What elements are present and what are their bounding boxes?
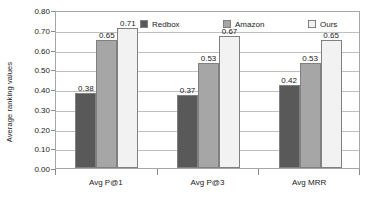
y-axis-tick-label: 0.00 xyxy=(18,165,50,174)
bar-redbox-avgp3 xyxy=(177,95,198,168)
y-axis-tick-mark xyxy=(51,31,55,32)
bars-layer: 0.380.650.710.370.530.670.420.530.65 xyxy=(56,12,359,168)
bar-ours-avgmrr xyxy=(321,40,342,168)
bar-value-label: 0.42 xyxy=(281,76,297,85)
legend-swatch-icon xyxy=(223,20,231,28)
legend-entry-redbox[interactable]: Redbox xyxy=(140,20,180,29)
bar-amazon-avgp3 xyxy=(198,63,219,168)
x-axis-ticks xyxy=(55,169,360,177)
y-axis-tick-label: 0.10 xyxy=(18,145,50,154)
x-axis-category-label: Avg P@3 xyxy=(191,178,225,187)
bar-value-label: 0.53 xyxy=(201,54,217,63)
y-axis-tick-mark xyxy=(51,90,55,91)
legend-swatch-icon xyxy=(308,20,316,28)
legend-swatch-icon xyxy=(140,20,148,28)
y-axis-tick-mark xyxy=(51,149,55,150)
bar-amazon-avgp1 xyxy=(96,40,117,168)
x-axis-category-label: Avg P@1 xyxy=(89,178,123,187)
y-axis-tick-label: 0.20 xyxy=(18,125,50,134)
plot-area: 0.380.650.710.370.530.670.420.530.65 Red… xyxy=(55,11,360,169)
y-axis-tick-label: 0.80 xyxy=(18,7,50,16)
bar-redbox-avgmrr xyxy=(279,85,300,168)
bar-redbox-avgp1 xyxy=(75,93,96,168)
bar-chart: Average ranking values 0.800.700.600.500… xyxy=(0,0,370,204)
y-axis-tick-label: 0.70 xyxy=(18,26,50,35)
y-axis-tick-mark xyxy=(51,110,55,111)
chart-legend: RedboxAmazonOurs xyxy=(56,16,359,32)
legend-entry-amazon[interactable]: Amazon xyxy=(223,20,264,29)
x-axis-tick-mark xyxy=(359,169,360,175)
y-axis-tick-label: 0.50 xyxy=(18,66,50,75)
y-axis-tick-label: 0.40 xyxy=(18,86,50,95)
y-axis-title: Average ranking values xyxy=(0,0,18,204)
y-axis-tick-mark xyxy=(51,51,55,52)
legend-label: Amazon xyxy=(235,20,264,29)
y-axis-tick-labels: 0.800.700.600.500.400.300.200.100.00 xyxy=(18,11,50,169)
bar-value-label: 0.38 xyxy=(78,84,94,93)
x-axis-category-labels: Avg P@1Avg P@3Avg MRR xyxy=(55,178,360,194)
y-axis-tick-mark xyxy=(51,70,55,71)
y-axis-tick-mark xyxy=(51,11,55,12)
y-axis-tick-label: 0.30 xyxy=(18,105,50,114)
bar-value-label: 0.53 xyxy=(302,54,318,63)
legend-entry-ours[interactable]: Ours xyxy=(308,20,337,29)
y-axis-tick-mark xyxy=(51,169,55,170)
legend-label: Redbox xyxy=(152,20,180,29)
x-axis-tick-mark xyxy=(157,169,158,175)
bar-ours-avgp1 xyxy=(117,28,138,168)
y-axis-tick-label: 0.60 xyxy=(18,46,50,55)
legend-label: Ours xyxy=(320,20,337,29)
x-axis-category-label: Avg MRR xyxy=(292,178,326,187)
bar-value-label: 0.37 xyxy=(180,86,196,95)
x-axis-tick-mark xyxy=(55,169,56,175)
bar-amazon-avgmrr xyxy=(300,63,321,168)
bar-ours-avgp3 xyxy=(219,36,240,168)
x-axis-tick-mark xyxy=(258,169,259,175)
y-axis-tick-mark xyxy=(51,130,55,131)
